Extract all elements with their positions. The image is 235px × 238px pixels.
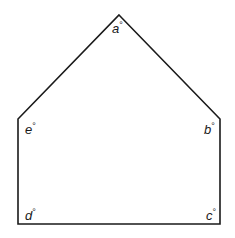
angle-c-letter: c	[206, 208, 213, 223]
angle-label-a: a°	[112, 22, 123, 35]
angle-c-degree: °	[213, 207, 217, 217]
angle-label-e: e°	[25, 123, 36, 136]
angle-label-c: c°	[206, 209, 216, 222]
angle-label-d: d°	[25, 209, 36, 222]
angle-b-degree: °	[211, 121, 215, 131]
angle-e-degree: °	[32, 121, 36, 131]
angle-label-b: b°	[204, 123, 215, 136]
angle-d-degree: °	[32, 207, 36, 217]
pentagon-shape	[18, 15, 220, 224]
angle-a-degree: °	[119, 20, 123, 30]
